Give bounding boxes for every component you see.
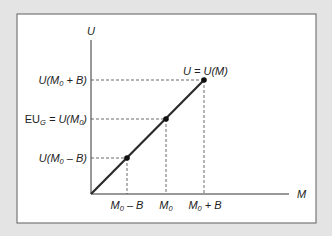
y-label-high: U(M0 + B)	[39, 74, 88, 88]
x-label-high: M0 + B	[188, 199, 221, 213]
y-axis-label: U	[87, 25, 95, 37]
x-axis-label: M	[297, 188, 307, 200]
y-label-low: U(M0 – B)	[39, 152, 88, 166]
utility-diagram: U M U = U(M) U(M0 + B) EUG = U(M0) U(M0 …	[0, 0, 332, 236]
x-label-low: M0 – B	[111, 199, 144, 213]
point-mid	[163, 116, 169, 122]
curve-label: U = U(M)	[183, 65, 228, 77]
y-label-mid: EUG = U(M0)	[25, 113, 88, 127]
point-low	[124, 155, 130, 161]
point-high	[201, 77, 207, 83]
diagram-svg: U M U = U(M) U(M0 + B) EUG = U(M0) U(M0 …	[0, 0, 332, 236]
